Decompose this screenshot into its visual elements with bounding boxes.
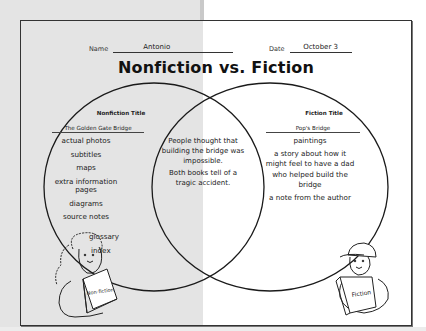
nonfiction-item: pages <box>36 185 136 196</box>
nonfiction-column-title: Nonfiction Title <box>71 110 171 116</box>
nonfiction-item: actual photos <box>36 136 136 147</box>
name-label: Name <box>89 45 108 53</box>
name-field: Name Antonio <box>89 43 233 53</box>
fiction-items: paintings a story about how it might fee… <box>264 136 356 205</box>
date-label: Date <box>269 45 285 53</box>
fiction-column-title: Fiction Title <box>289 110 359 116</box>
nonfiction-item: subtitles <box>36 150 136 161</box>
background-bottom-strip <box>0 327 426 331</box>
name-value: Antonio <box>113 43 233 51</box>
nonfiction-book-title: The Golden Gate Bridge <box>52 125 144 133</box>
date-line: October 3 <box>290 43 352 53</box>
worksheet: Name Antonio Date October 3 Nonfiction v… <box>20 20 412 326</box>
boy-reading-illustration: Fiction <box>326 239 401 319</box>
fiction-item: a note from the author <box>264 193 356 204</box>
nonfiction-item: maps <box>36 163 136 174</box>
nonfiction-item: source notes <box>36 212 136 223</box>
girl-reading-illustration: Non-fiction <box>43 231 128 323</box>
name-line: Antonio <box>113 43 233 53</box>
fiction-item: paintings <box>264 136 356 147</box>
fiction-item: a story about how it might feel to have … <box>264 149 356 191</box>
date-value: October 3 <box>290 43 352 51</box>
overlap-item: Both books tell of a tragic accident. <box>161 168 245 188</box>
worksheet-title: Nonfiction vs. Fiction <box>21 58 411 77</box>
overlap-items: People thought that building the bridge … <box>161 136 245 190</box>
fiction-book-title: Pop's Bridge <box>266 125 360 133</box>
nonfiction-item: diagrams <box>36 199 136 210</box>
nonfiction-items: actual photos subtitles maps extra infor… <box>36 136 136 223</box>
overlap-item: People thought that building the bridge … <box>161 136 245 166</box>
date-field: Date October 3 <box>269 43 352 53</box>
